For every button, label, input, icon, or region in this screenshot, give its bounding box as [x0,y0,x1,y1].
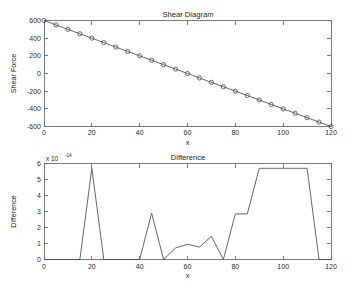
difference-plot-yticks [44,164,331,260]
svg-text:2: 2 [37,224,41,231]
svg-text:0: 0 [42,129,46,136]
difference-plot-xlabel: x [186,271,190,280]
svg-text:0: 0 [37,70,41,77]
svg-text:20: 20 [88,129,96,136]
exponent-power: -14 [65,153,72,158]
shear-plot-ylabel: Shear Force [9,54,18,94]
svg-text:600: 600 [29,17,41,24]
difference-plot: Difference [9,153,337,280]
svg-text:40: 40 [136,129,144,136]
shear-plot-yticklabels: 600 400 200 0 -200 -400 -600 [27,17,41,130]
svg-text:400: 400 [29,35,41,42]
shear-plot-xlabel: x [186,138,190,147]
matlab-figure-canvas: Shear Diagram [0,0,360,293]
series-line [44,168,331,259]
svg-text:20: 20 [88,263,96,270]
svg-text:40: 40 [136,263,144,270]
exponent-base: x 10 [46,155,59,162]
svg-text:3: 3 [37,208,41,215]
svg-text:200: 200 [29,52,41,59]
svg-text:-400: -400 [27,105,41,112]
svg-text:80: 80 [231,129,239,136]
svg-text:60: 60 [184,129,192,136]
svg-text:-600: -600 [27,123,41,130]
difference-plot-ylabel: Difference [9,195,18,228]
svg-text:5: 5 [37,176,41,183]
figure-svg: Shear Diagram [0,0,360,293]
series-line [44,21,331,127]
svg-text:0: 0 [37,256,41,263]
svg-text:6: 6 [37,160,41,167]
shear-force-series [42,18,333,128]
difference-plot-yticklabels: 6 5 4 3 2 1 0 [37,160,41,263]
difference-plot-xticklabels: 0 20 40 60 80 100 120 [42,263,337,270]
difference-plot-exponent: x 10 -14 [46,153,72,162]
shear-plot-xticklabels: 0 20 40 60 80 100 120 [42,129,337,136]
difference-plot-title: Difference [171,153,205,162]
svg-text:4: 4 [37,192,41,199]
svg-text:100: 100 [277,263,289,270]
svg-text:120: 120 [325,129,337,136]
svg-text:80: 80 [231,263,239,270]
difference-plot-frame [44,164,331,260]
svg-text:60: 60 [184,263,192,270]
shear-diagram-plot: Shear Diagram [9,10,337,147]
svg-text:-200: -200 [27,88,41,95]
svg-text:120: 120 [325,263,337,270]
difference-series [44,168,331,259]
svg-text:1: 1 [37,240,41,247]
difference-plot-xticks [44,164,331,260]
svg-text:0: 0 [42,263,46,270]
shear-plot-title: Shear Diagram [162,10,213,19]
svg-text:100: 100 [277,129,289,136]
